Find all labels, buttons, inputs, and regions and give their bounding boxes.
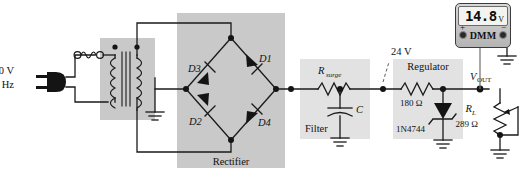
wire-plug-top — [66, 55, 95, 77]
dmm-front-panel: + − DMM — [458, 26, 508, 45]
potentiometer-rl-icon — [494, 103, 518, 135]
zener-part-number: 1N4744 — [396, 124, 425, 134]
diode-d1-label: D1 — [258, 53, 272, 64]
dmm-negative-jack[interactable] — [499, 31, 507, 39]
capacitor-c-label: C — [356, 104, 364, 115]
diode-d3-label: D3 — [187, 63, 201, 74]
node-24v — [380, 86, 386, 92]
rsurge-symbol: R — [317, 65, 325, 76]
svg-text:D2: D2 — [188, 116, 203, 127]
vout-subscript: OUT — [477, 76, 492, 84]
ground-icon — [331, 138, 349, 146]
bridge-node-left — [183, 86, 189, 92]
dmm-positive-jack[interactable] — [459, 31, 467, 39]
regulator-resistor-value: 180 Ω — [400, 98, 423, 108]
svg-text:D3: D3 — [187, 63, 201, 74]
svg-text:D4: D4 — [257, 117, 272, 128]
annotation-leader-24v — [383, 62, 389, 82]
ac-plug-icon — [36, 72, 66, 92]
dmm-model-label: DMM — [470, 30, 497, 41]
dmm-reading: 14.8 — [465, 9, 497, 23]
diode-d4-label: D4 — [257, 117, 272, 128]
ground-icon — [491, 150, 509, 158]
diode-d2-label: D2 — [188, 116, 203, 127]
svg-text:D1: D1 — [258, 53, 272, 64]
load-subscript: L — [471, 109, 476, 117]
rsurge-subscript: surge — [326, 71, 341, 79]
filter-block-label: Filter — [305, 123, 328, 134]
ground-icon — [498, 56, 516, 64]
regulator-block-label: Regulator — [407, 61, 449, 72]
digital-multimeter[interactable]: 14.8 V + − DMM — [455, 3, 511, 48]
bridge-node-bottom — [228, 137, 234, 143]
ground-icon — [434, 140, 452, 148]
rectifier-block-label: Rectifier — [213, 156, 250, 167]
load-value: 289 Ω — [456, 119, 479, 129]
circuit-diagram-figure: 110 V 60 Hz — [0, 0, 526, 175]
bridge-node-top — [228, 35, 234, 41]
transformer-block-shading — [100, 38, 155, 120]
source-frequency-label: 60 Hz — [0, 79, 14, 90]
node-rectifier-output — [288, 86, 294, 92]
node-load-bottom — [497, 132, 503, 138]
annotation-24v-label: 24 V — [391, 46, 412, 57]
schematic-canvas: 110 V 60 Hz — [0, 0, 526, 175]
source-voltage-label: 110 V — [0, 65, 14, 76]
